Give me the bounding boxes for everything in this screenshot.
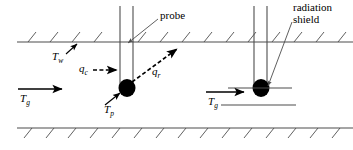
probe-temperature-subscript: p	[110, 109, 114, 118]
gas-temperature-label-left: Tg	[20, 93, 30, 107]
radiation-flux-subscript: r	[158, 71, 161, 80]
top-wall-hatching	[28, 32, 346, 42]
radiation-shield-label-line2: shield	[293, 14, 332, 26]
probe-temperature-label: Tp	[104, 104, 114, 118]
wall-temp-leader	[66, 44, 77, 54]
radiation-shield-label: radiation shield	[293, 2, 332, 25]
thermocouple-duct-diagram: probe radiation shield Tw Tg Tg Tp qc qr	[0, 0, 353, 150]
gas-temperature-subscript-left: g	[26, 98, 30, 107]
right-probe	[253, 6, 270, 97]
radiation-flux-label: qr	[152, 66, 160, 80]
convection-flux-label: qc	[79, 63, 88, 77]
radiation-shield-label-line1: radiation	[293, 2, 332, 14]
radiation-shield-leader	[268, 22, 292, 86]
top-wall	[17, 32, 353, 42]
probe-label: probe	[160, 10, 185, 22]
gas-temperature-label-right: Tg	[208, 96, 218, 110]
wall-temperature-label: Tw	[52, 51, 63, 65]
gas-temperature-subscript-right: g	[214, 101, 218, 110]
wall-temperature-subscript: w	[58, 56, 63, 65]
bottom-wall	[17, 128, 353, 138]
bottom-wall-hatching	[24, 128, 340, 138]
convection-flux-subscript: c	[85, 68, 88, 77]
left-probe	[119, 6, 136, 97]
